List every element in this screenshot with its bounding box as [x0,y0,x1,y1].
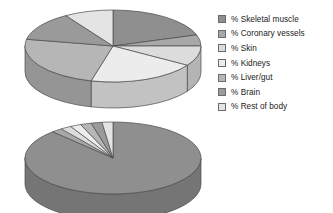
legend-swatch-liver-gut [218,74,226,82]
legend-item: % Coronary vessels [218,27,333,42]
legend-item-label: % Skin [231,44,257,53]
legend-swatch-kidneys [218,59,226,67]
chart-bottom-svg [0,112,215,213]
chart-top-svg [0,0,215,110]
chart-legend: % Skeletal muscle% Coronary vessels% Ski… [218,12,333,114]
legend-swatch-skin [218,44,226,52]
legend-item-label: % Skeletal muscle [231,15,299,24]
legend-item-label: % Brain [231,88,260,97]
legend-swatch-coronary-vessels [218,30,226,38]
legend-swatch-rest-of-body [218,103,226,111]
legend-item: % Liver/gut [218,70,333,85]
legend-item-label: % Coronary vessels [231,29,305,38]
figure-root: % Skeletal muscle% Coronary vessels% Ski… [0,0,333,213]
legend-item: % Kidneys [218,56,333,71]
legend-item-label: % Kidneys [231,59,270,68]
legend-item-label: % Rest of body [231,102,287,111]
legend-swatch-brain [218,88,226,96]
legend-item: % Skeletal muscle [218,12,333,27]
pie-chart-rest [0,0,215,110]
pie-top-faces [25,122,201,194]
legend-item: % Brain [218,85,333,100]
legend-item: % Skin [218,41,333,56]
pie-chart-exercise [0,112,215,213]
pie-top-faces [25,10,201,82]
legend-item: % Rest of body [218,100,333,115]
legend-item-label: % Liver/gut [231,73,273,82]
legend-swatch-skeletal-muscle [218,15,226,23]
